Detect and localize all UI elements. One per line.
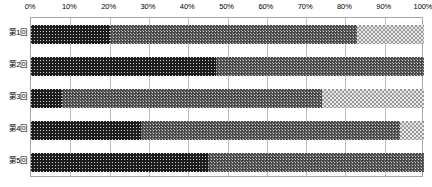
bar-segment-series-2 [208,153,424,172]
bar-segment-series-1 [31,121,141,140]
bar-segment-series-3 [322,89,424,108]
y-axis-category-label: 第5回 [9,156,27,166]
plot-area [30,17,423,177]
y-axis-category-labels: 第1回第2回第3回第4回第5回 [0,17,30,177]
bar-segment-series-1 [31,57,216,76]
x-axis-tick-label: 70% [298,2,313,12]
bar-row [31,153,422,172]
bar-segment-series-2 [216,57,424,76]
x-axis-tick-label: 0% [25,2,36,12]
x-axis-tick-label: 80% [337,2,352,12]
bar-row [31,25,422,44]
bar-row [31,121,422,140]
bar-segment-series-2 [141,121,400,140]
bar-segment-series-1 [31,89,62,108]
y-axis-category-label: 第4回 [9,124,27,134]
bar-segment-series-1 [31,25,110,44]
bar-segment-series-2 [110,25,358,44]
x-axis-tick-label: 10% [62,2,77,12]
bar-row [31,89,422,108]
x-axis-tick-label: 50% [219,2,234,12]
y-axis-category-label: 第3回 [9,92,27,102]
x-axis-tick-label: 30% [141,2,156,12]
stacked-bar-chart: 0%10%20%30%40%50%60%70%80%90%100% 第1回第2回… [0,0,432,187]
x-axis-tick-labels: 0%10%20%30%40%50%60%70%80%90%100% [0,0,432,17]
x-axis-tick-label: 60% [258,2,273,12]
bar-segment-series-3 [400,121,424,140]
bar-segment-series-2 [62,89,321,108]
x-axis-tick-label: 40% [180,2,195,12]
y-axis-category-label: 第2回 [9,60,27,70]
bars-layer [31,18,422,176]
y-axis-category-label: 第1回 [9,28,27,38]
bar-row [31,57,422,76]
bar-segment-series-1 [31,153,208,172]
x-axis-tick-label: 100% [414,2,432,12]
bar-segment-series-3 [357,25,424,44]
x-axis-tick-label: 90% [376,2,391,12]
x-axis-tick-label: 20% [101,2,116,12]
